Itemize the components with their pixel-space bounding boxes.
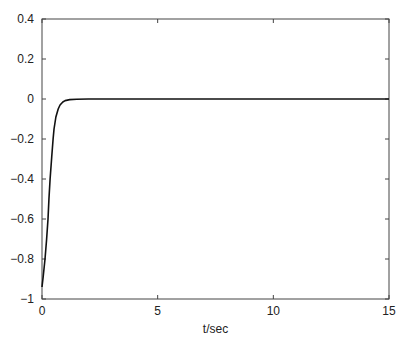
y-tick-label: −0.6 [10, 212, 34, 226]
plot-area: 051015 0.40.20−0.2−0.4−0.6−0.8−1 t/sec [10, 12, 396, 336]
y-tick-label: 0 [27, 92, 34, 106]
x-tick-label: 5 [154, 304, 161, 318]
line-chart: 051015 0.40.20−0.2−0.4−0.6−0.8−1 t/sec [0, 0, 411, 344]
y-tick-label: −0.8 [10, 252, 34, 266]
y-tick-label: 0.2 [17, 52, 34, 66]
x-axis-label: t/sec [203, 322, 228, 336]
y-tick-label: −0.2 [10, 132, 34, 146]
x-tick-label: 15 [382, 304, 396, 318]
y-tick-label: −0.4 [10, 172, 34, 186]
y-tick-label: 0.4 [17, 12, 34, 26]
y-tick-label: −1 [20, 292, 34, 306]
y-tick-labels: 0.40.20−0.2−0.4−0.6−0.8−1 [10, 12, 34, 306]
axes-box [42, 19, 389, 299]
x-tick-label: 0 [39, 304, 46, 318]
x-tick-label: 10 [267, 304, 281, 318]
axis-ticks [42, 19, 389, 299]
x-tick-labels: 051015 [39, 304, 396, 318]
response-curve [42, 99, 389, 287]
